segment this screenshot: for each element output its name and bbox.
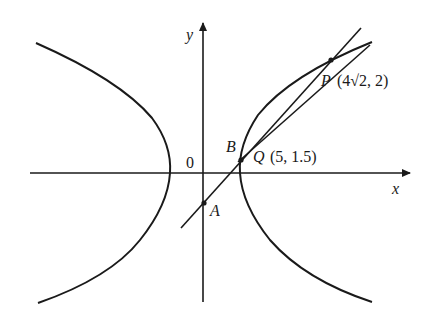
x-axis-label: x	[391, 180, 399, 197]
point-q-dot	[238, 157, 243, 162]
tangent-line	[238, 45, 370, 162]
point-p-name: P	[320, 72, 331, 89]
hyperbola-diagram: y x 0 P (4√2, 2) Q (5, 1.5) B A	[0, 0, 432, 320]
point-q-coords: (5, 1.5)	[270, 148, 317, 166]
point-q-name: Q	[253, 148, 265, 165]
point-a-dot	[201, 200, 206, 205]
secant-line	[181, 28, 361, 228]
point-a-label: A	[209, 202, 220, 219]
origin-label: 0	[186, 154, 194, 171]
y-axis-label: y	[184, 26, 194, 44]
point-p-dot	[328, 57, 333, 62]
point-b-label: B	[226, 138, 236, 155]
point-p-coords: (4√2, 2)	[337, 72, 388, 90]
